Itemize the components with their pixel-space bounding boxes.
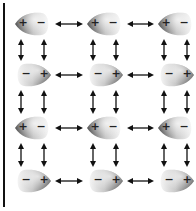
charge-sign-right: + (181, 173, 193, 187)
charge-sign-right: − (107, 120, 119, 134)
charge-sign-left: − (92, 67, 104, 81)
charge-sign-left: + (160, 120, 172, 134)
charge-sign-right: + (110, 173, 122, 187)
dipole-1-2: + − (86, 11, 124, 37)
dipole-3-1: + − (14, 115, 52, 141)
left-border-rule (3, 3, 5, 207)
charge-sign-left: + (17, 120, 29, 134)
charge-sign-right: + (38, 67, 50, 81)
dipole-4-3: − + (157, 168, 195, 194)
charge-sign-left: − (20, 173, 32, 187)
charge-sign-right: + (181, 67, 193, 81)
charge-sign-right: − (178, 120, 190, 134)
charge-sign-left: + (160, 16, 172, 30)
charge-sign-right: − (178, 16, 190, 30)
dipole-1-1: + − (14, 11, 52, 37)
charge-sign-left: − (163, 173, 175, 187)
dipole-2-3: − + (157, 62, 195, 88)
dipole-3-2: + − (86, 115, 124, 141)
charge-sign-right: + (110, 67, 122, 81)
dipole-diagram: + − (0, 0, 196, 211)
dipole-4-2: − + (86, 168, 124, 194)
charge-sign-left: − (163, 67, 175, 81)
charge-sign-left: − (92, 173, 104, 187)
dipole-2-1: − + (14, 62, 52, 88)
dipole-3-3: + − (157, 115, 195, 141)
charge-sign-left: + (89, 16, 101, 30)
charge-sign-right: − (107, 16, 119, 30)
charge-sign-left: + (89, 120, 101, 134)
dipole-1-3: + − (157, 11, 195, 37)
charge-sign-left: − (20, 67, 32, 81)
dipole-2-2: − + (86, 62, 124, 88)
charge-sign-right: − (35, 120, 47, 134)
charge-sign-right: + (38, 173, 50, 187)
dipole-4-1: − + (14, 168, 52, 194)
charge-sign-left: + (17, 16, 29, 30)
charge-sign-right: − (35, 16, 47, 30)
